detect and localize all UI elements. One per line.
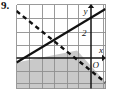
x-axis-label: x bbox=[98, 45, 103, 55]
problem-number-label: 9. bbox=[1, 0, 9, 11]
origin-label: O bbox=[93, 60, 100, 70]
y-axis-label: y bbox=[83, 6, 88, 16]
figure-container: 9. bbox=[0, 0, 122, 95]
graph-svg: y x 2 O 4 bbox=[16, 4, 106, 89]
coordinate-plot: y x 2 O 4 bbox=[16, 4, 106, 89]
y-tick-label-2: 2 bbox=[82, 28, 87, 38]
